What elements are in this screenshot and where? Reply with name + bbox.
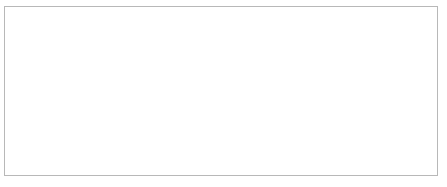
chart-figure: 05101520253035 1940195019601970198019902… bbox=[0, 0, 447, 187]
figure-border bbox=[4, 6, 438, 176]
